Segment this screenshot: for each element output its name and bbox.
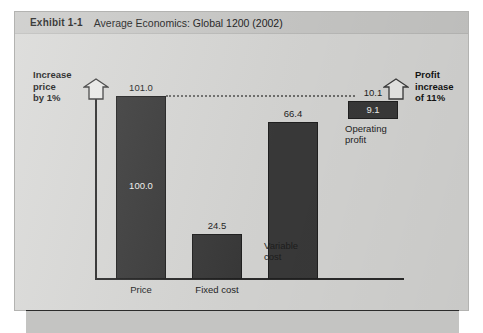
- exhibit-number-label: Exhibit 1-1: [30, 17, 83, 28]
- increase-price-line1: Increase: [33, 69, 72, 81]
- figure-bottom-band: [26, 311, 459, 333]
- bar-fixed-cost-category-label: Fixed cost: [182, 284, 252, 295]
- profit-increase-callout: Profit increase of 11%: [415, 69, 454, 104]
- profit-increase-line2: increase: [415, 81, 454, 93]
- bar-price-category-label: Price: [111, 284, 171, 295]
- bar-variable-cost-category-label-line2: cost: [264, 251, 281, 262]
- increase-price-line3: by 1%: [33, 92, 72, 104]
- up-banner-icon-right: [383, 78, 409, 100]
- bar-fixed-cost: [192, 234, 242, 279]
- increase-price-line2: price: [33, 81, 72, 93]
- profit-increase-line1: Profit: [415, 69, 454, 81]
- exhibit-title-bar: Exhibit 1-1 Average Economics: Global 12…: [15, 12, 468, 34]
- dotted-connector-line: [166, 95, 355, 97]
- exhibit-title-text: Average Economics: Global 1200 (2002): [94, 17, 283, 29]
- bar-operating-profit-category-label-line1: Operating: [345, 123, 387, 134]
- bar-operating-profit-category-label-line2: profit: [345, 134, 366, 145]
- increase-price-callout: Increase price by 1%: [33, 69, 72, 104]
- bar-price-top-value: 101.0: [111, 82, 171, 93]
- y-axis-line: [95, 80, 97, 279]
- bar-variable-cost-category-label-line1: Variable: [264, 240, 298, 251]
- bar-fixed-cost-top-value: 24.5: [187, 220, 247, 231]
- exhibit-figure-panel: Exhibit 1-1 Average Economics: Global 12…: [14, 11, 469, 311]
- bar-operating-profit-inside-value: 9.1: [343, 104, 403, 115]
- profit-increase-line3: of 11%: [415, 92, 454, 104]
- up-banner-icon-left: [83, 78, 109, 100]
- bar-variable-cost-top-value: 66.4: [263, 108, 323, 119]
- bar-price-inside-value: 100.0: [111, 180, 171, 191]
- chart-plot-area: 101.0 100.0 Price 24.5 Fixed cost 66.4 V…: [15, 34, 470, 312]
